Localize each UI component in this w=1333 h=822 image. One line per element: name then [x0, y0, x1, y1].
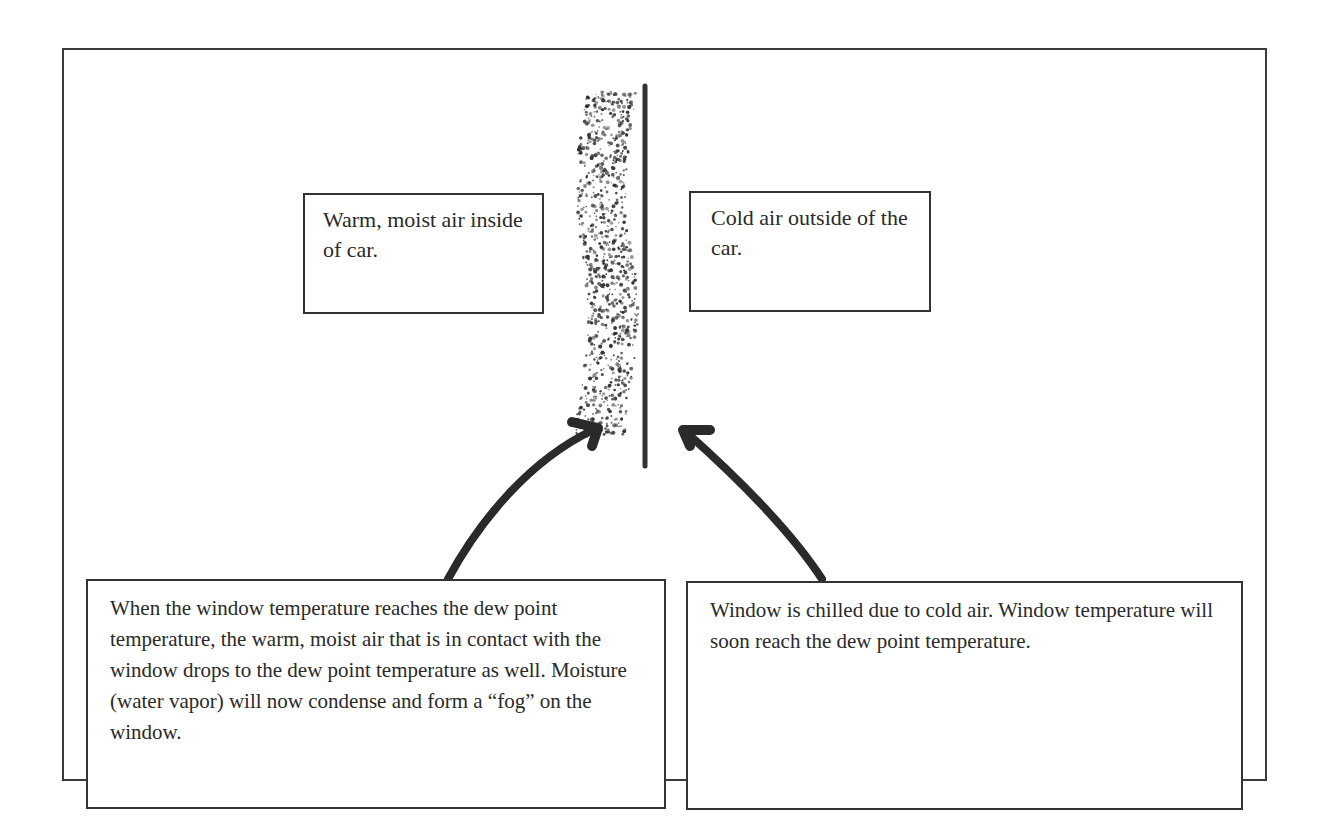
outside-air-label: Cold air outside of the car. [711, 205, 908, 260]
window-chill-explanation: Window is chilled due to cold air. Windo… [710, 598, 1213, 653]
arrow-to-fog-icon [448, 422, 598, 579]
arrow-to-window-icon [683, 430, 822, 579]
inside-air-label-box: Warm, moist air inside of car. [303, 193, 544, 314]
window-chill-explanation-box: Window is chilled due to cold air. Windo… [686, 581, 1243, 810]
outside-air-label-box: Cold air outside of the car. [689, 191, 931, 312]
condensation-explanation: When the window temperature reaches the … [110, 596, 627, 744]
inside-air-label: Warm, moist air inside of car. [323, 207, 523, 262]
condensation-explanation-box: When the window temperature reaches the … [86, 579, 666, 809]
condensation-fog-icon [575, 91, 639, 438]
